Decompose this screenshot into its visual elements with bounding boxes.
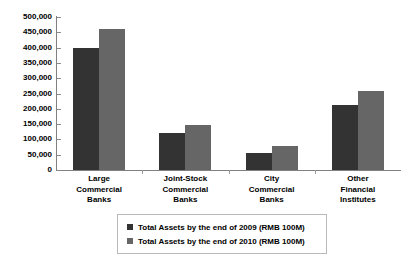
legend-item-label: Total Assets by the end of 2010 (RMB 100… (138, 237, 305, 246)
y-axis-tick (57, 170, 61, 171)
category-label-line: Banks (142, 195, 228, 206)
y-axis-tick-label: 350,000 (0, 59, 52, 67)
bar (246, 153, 272, 170)
y-axis-tick (57, 17, 61, 18)
bar (358, 91, 384, 170)
y-axis-tick-label: 500,000 (0, 13, 52, 21)
y-axis-tick-label: 0 (0, 166, 52, 174)
y-axis-tick (57, 155, 61, 156)
category-label-line: Banks (229, 195, 315, 206)
y-axis-tick-label: 200,000 (0, 105, 52, 113)
y-axis-tick (57, 63, 61, 64)
y-axis-tick (57, 32, 61, 33)
y-axis-tick-label: 300,000 (0, 74, 52, 82)
y-axis-tick (57, 78, 61, 79)
y-axis-tick (57, 139, 61, 140)
y-axis-tick-label: 100,000 (0, 135, 52, 143)
category-label-line: Commercial (56, 185, 142, 196)
bar (99, 29, 125, 170)
category-label-line: Joint-Stock (142, 174, 228, 185)
bar-chart: 500,000450,000400,000350,000300,000250,0… (0, 0, 411, 269)
category-label-line: Commercial (142, 185, 228, 196)
x-axis-category-label: OtherFinancialInstitutes (315, 174, 401, 206)
x-axis-category-label: CityCommercialBanks (229, 174, 315, 206)
chart-legend: Total Assets by the end of 2009 (RMB 100… (117, 214, 327, 254)
bar (185, 125, 211, 170)
y-axis-tick (57, 124, 61, 125)
legend-item-label: Total Assets by the end of 2009 (RMB 100… (138, 223, 305, 232)
y-axis-tick (57, 48, 61, 49)
y-axis-tick-label: 450,000 (0, 28, 52, 36)
y-axis-tick-label: 50,000 (0, 151, 52, 159)
y-axis-tick (57, 94, 61, 95)
category-label-line: Large (56, 174, 142, 185)
category-label-line: Banks (56, 195, 142, 206)
category-label-line: Other (315, 174, 401, 185)
legend-swatch-icon (127, 238, 133, 244)
x-axis-category-label: LargeCommercialBanks (56, 174, 142, 206)
bar (159, 133, 185, 170)
legend-item: Total Assets by the end of 2010 (RMB 100… (118, 234, 326, 248)
bar (332, 105, 358, 170)
category-label-line: Financial (315, 185, 401, 196)
legend-swatch-icon (127, 224, 133, 230)
bar (272, 146, 298, 170)
category-label-line: Commercial (229, 185, 315, 196)
category-label-line: City (229, 174, 315, 185)
y-axis-tick-label: 250,000 (0, 90, 52, 98)
legend-item: Total Assets by the end of 2009 (RMB 100… (118, 220, 326, 234)
y-axis-tick-label: 150,000 (0, 120, 52, 128)
x-axis-category-label: Joint-StockCommercialBanks (142, 174, 228, 206)
bar (73, 48, 99, 170)
category-label-line: Institutes (315, 195, 401, 206)
y-axis-tick-label: 400,000 (0, 44, 52, 52)
y-axis-tick (57, 109, 61, 110)
